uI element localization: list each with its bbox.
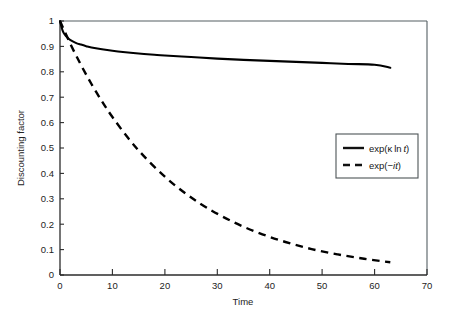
x-axis-title: Time xyxy=(233,296,254,307)
y-axis-title: Discounting factor xyxy=(15,110,26,186)
x-tick-label: 50 xyxy=(317,280,328,291)
x-tick-label: 20 xyxy=(160,280,171,291)
y-tick-label: 0.3 xyxy=(41,193,54,204)
x-tick-label: 30 xyxy=(212,280,223,291)
y-tick-label: 0.8 xyxy=(41,66,54,77)
x-tick-label: 40 xyxy=(264,280,275,291)
y-tick-label: 0.1 xyxy=(41,244,54,255)
y-tick-label: 0.2 xyxy=(41,219,54,230)
x-tick-label: 10 xyxy=(107,280,118,291)
y-tick-label: 0.4 xyxy=(41,168,54,179)
chart-legend[interactable]: exp(κ ln t) exp(−it) xyxy=(336,134,418,178)
legend-box xyxy=(336,134,418,178)
x-tick-label: 60 xyxy=(369,280,380,291)
y-tick-label: 0.5 xyxy=(41,142,54,153)
y-tick-label: 0.7 xyxy=(41,92,54,103)
chart-figure: 0 0.1 0.2 0.3 0.4 0.5 0.6 0.7 0.8 0.9 1 … xyxy=(0,0,453,315)
y-tick-label: 0.9 xyxy=(41,41,54,52)
y-tick-label: 0.6 xyxy=(41,117,54,128)
y-tick-label: 0 xyxy=(49,269,54,280)
legend-label-dashed: exp(−it) xyxy=(369,160,401,171)
y-tick-labels: 0 0.1 0.2 0.3 0.4 0.5 0.6 0.7 0.8 0.9 1 xyxy=(41,15,54,280)
y-tick-label: 1 xyxy=(49,15,54,26)
legend-label-solid: exp(κ ln t) xyxy=(369,143,409,154)
x-tick-labels: 0 10 20 30 40 50 60 70 xyxy=(57,280,432,291)
discounting-factor-line-chart: 0 0.1 0.2 0.3 0.4 0.5 0.6 0.7 0.8 0.9 1 … xyxy=(0,0,453,315)
x-tick-label: 0 xyxy=(57,280,62,291)
x-tick-label: 70 xyxy=(422,280,433,291)
